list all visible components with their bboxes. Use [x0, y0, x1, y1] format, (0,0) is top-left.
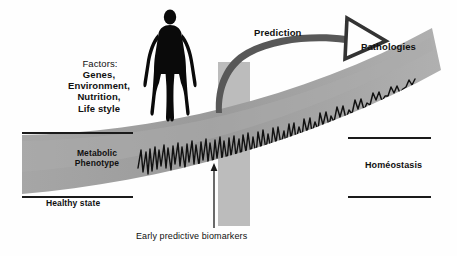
healthy-state-label: Healthy state	[46, 198, 100, 208]
pointer-arrowhead-icon	[211, 163, 218, 171]
pathologies-label: Pathologies	[361, 41, 416, 52]
factors-list: Genes, Environment, Nutrition, Life styl…	[34, 69, 164, 114]
early-biomarkers-caption: Early predictive biomarkers	[136, 231, 247, 242]
diagram-graphics	[0, 0, 457, 256]
metabolic-phenotype-label: Metabolic Phenotype	[56, 148, 138, 168]
prediction-label: Prediction	[254, 27, 301, 38]
homeostasis-label: Homéostasis	[365, 160, 422, 171]
factors-heading: Factors:	[48, 58, 152, 69]
prediction-arrowhead-icon	[345, 18, 386, 59]
figure-canvas: Factors: Genes, Environment, Nutrition, …	[0, 0, 457, 256]
